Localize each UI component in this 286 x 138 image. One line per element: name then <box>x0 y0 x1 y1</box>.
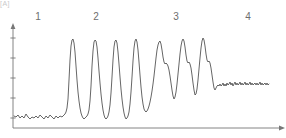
axes-group <box>10 23 285 130</box>
y-axis-arrowhead <box>11 23 16 29</box>
trace-line-trace <box>14 38 269 119</box>
x-axis-arrowhead <box>279 126 285 131</box>
trace-chart-figure: [A] 1234 <box>0 0 286 138</box>
plot-area <box>0 0 286 138</box>
trace-line-group <box>14 38 269 119</box>
